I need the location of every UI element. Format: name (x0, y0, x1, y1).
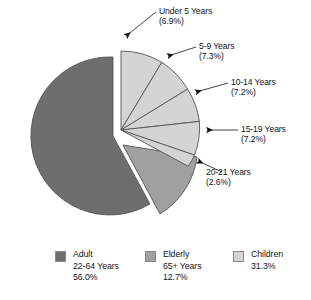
callout-20-21-years-label: 20-21 Years (206, 167, 251, 177)
callout-5-9-years-pct: (7.3%) (199, 51, 234, 61)
callout-10-14-years-pct: (7.2%) (231, 87, 276, 97)
callout-5-9-years-label: 5-9 Years (199, 41, 234, 51)
legend-elderly-range: 65+ Years (163, 261, 201, 273)
legend-swatch-children-icon (233, 251, 244, 262)
callout-under-5-years: Under 5 Years (6.9%) (159, 6, 212, 27)
callout-15-19-years-label: 15-19 Years (241, 124, 286, 134)
legend-item-adult[interactable]: Adult 22-64 Years 56.0% (55, 249, 119, 284)
callout-15-19-years: 15-19 Years (7.2%) (241, 124, 286, 145)
callout-under-5-years-pct: (6.9%) (159, 16, 212, 26)
legend-text-adult: Adult 22-64 Years 56.0% (73, 249, 119, 284)
legend-text-children: Children 31.3% (251, 249, 283, 272)
legend-swatch-adult-icon (55, 251, 66, 262)
legend-children-range: 31.3% (251, 261, 283, 273)
legend-children-title: Children (251, 249, 283, 261)
legend-elderly-pct: 12.7% (163, 272, 201, 284)
legend-item-elderly[interactable]: Elderly 65+ Years 12.7% (145, 249, 201, 284)
pie-chart: Under 5 Years (6.9%) 5-9 Years (7.3%) 10… (0, 0, 311, 300)
callout-15-19-years-pct: (7.2%) (241, 134, 286, 144)
legend-swatch-elderly-icon (145, 251, 156, 262)
legend-elderly-title: Elderly (163, 249, 201, 261)
callout-20-21-years: 20-21 Years (2.6%) (206, 167, 251, 188)
leader-5-9-years (168, 47, 196, 56)
chart-legend: Adult 22-64 Years 56.0% Elderly 65+ Year… (0, 249, 311, 300)
leader-under-5-years (126, 12, 156, 36)
callout-20-21-years-pct: (2.6%) (206, 177, 251, 187)
legend-text-elderly: Elderly 65+ Years 12.7% (163, 249, 201, 284)
legend-item-children[interactable]: Children 31.3% (233, 249, 283, 272)
callout-10-14-years-label: 10-14 Years (231, 77, 276, 87)
callout-10-14-years: 10-14 Years (7.2%) (231, 77, 276, 98)
callout-5-9-years: 5-9 Years (7.3%) (199, 41, 234, 62)
legend-adult-range: 22-64 Years (73, 261, 119, 273)
leader-10-14-years (196, 83, 228, 92)
legend-adult-pct: 56.0% (73, 272, 119, 284)
legend-adult-title: Adult (73, 249, 119, 261)
callout-under-5-years-label: Under 5 Years (159, 6, 212, 16)
